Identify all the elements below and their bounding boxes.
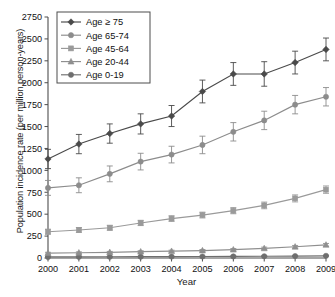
plot-svg: 0250500750100012501500175020002250250027… — [0, 0, 335, 297]
y-tick-label: 0 — [37, 253, 42, 263]
data-point-square-marker — [200, 213, 205, 218]
data-point-circle-marker — [169, 254, 174, 259]
data-point-circle-marker — [45, 185, 50, 190]
data-point-square-marker — [169, 216, 174, 221]
x-tick-label: 2003 — [131, 264, 151, 274]
y-axis-title: Population incidence rate (per million p… — [15, 15, 25, 247]
data-point-square-marker — [231, 208, 236, 213]
data-point-circle-marker — [262, 254, 267, 259]
data-point-circle-marker — [138, 254, 143, 259]
data-point-diamond-marker — [323, 46, 329, 52]
data-point-diamond-marker — [45, 156, 51, 162]
data-point-circle-marker — [169, 152, 174, 157]
data-point-square-marker — [262, 203, 267, 208]
data-point-square-marker — [138, 220, 143, 225]
series-line — [48, 190, 326, 232]
x-tick-label: 2002 — [100, 264, 120, 274]
legend-label: Age 20-44 — [86, 57, 129, 67]
data-point-circle-marker — [76, 183, 81, 188]
y-tick-label: 750 — [27, 188, 42, 198]
data-point-circle-marker — [293, 102, 298, 107]
series-age-0-19 — [45, 253, 329, 259]
data-point-square-marker — [107, 225, 112, 230]
data-point-diamond-marker — [76, 141, 82, 147]
x-tick-label: 2005 — [192, 264, 212, 274]
incidence-rate-line-chart: 0250500750100012501500175020002250250027… — [0, 0, 335, 297]
x-axis-title: Year — [48, 276, 325, 287]
x-tick-label: 2006 — [223, 264, 243, 274]
data-point-circle-marker — [293, 253, 298, 258]
data-point-diamond-marker — [107, 130, 113, 136]
series-line — [48, 256, 326, 257]
data-point-circle-marker — [323, 94, 328, 99]
x-tick-label: 2008 — [285, 264, 305, 274]
series-age-20-44 — [45, 242, 329, 256]
legend-label: Age ≥ 75 — [86, 17, 123, 27]
series-age-45-64 — [45, 186, 329, 234]
data-point-circle-marker — [231, 254, 236, 259]
data-point-square-marker — [324, 187, 329, 192]
x-tick-label: 2004 — [161, 264, 181, 274]
data-point-circle-marker — [323, 253, 328, 258]
series-line — [48, 245, 326, 253]
x-tick-label: 2000 — [38, 264, 58, 274]
legend-label: Age 45-64 — [86, 44, 129, 54]
legend-label: Age 65-74 — [86, 31, 129, 41]
legend-label: Age 0-19 — [86, 70, 124, 80]
data-point-circle-marker — [231, 129, 236, 134]
data-point-square-marker — [46, 229, 51, 234]
data-point-circle-marker — [200, 142, 205, 147]
data-point-square-marker — [69, 46, 74, 51]
data-point-square-marker — [76, 227, 81, 232]
data-point-square-marker — [293, 196, 298, 201]
x-tick-label: 2009 — [316, 264, 335, 274]
x-tick-label: 2007 — [254, 264, 274, 274]
y-tick-label: 500 — [27, 209, 42, 219]
data-point-diamond-marker — [261, 71, 267, 77]
data-point-circle-marker — [262, 118, 267, 123]
data-point-circle-marker — [200, 254, 205, 259]
series-line — [48, 97, 326, 188]
data-point-diamond-marker — [230, 71, 236, 77]
x-tick-label: 2001 — [69, 264, 89, 274]
data-point-diamond-marker — [292, 59, 298, 65]
legend: Age ≥ 75Age 65-74Age 45-64Age 20-44Age 0… — [57, 12, 150, 83]
data-point-diamond-marker — [137, 121, 143, 127]
y-tick-label: 250 — [27, 231, 42, 241]
data-point-circle-marker — [138, 159, 143, 164]
data-point-circle-marker — [68, 33, 73, 38]
data-point-circle-marker — [107, 171, 112, 176]
data-point-circle-marker — [68, 72, 73, 77]
